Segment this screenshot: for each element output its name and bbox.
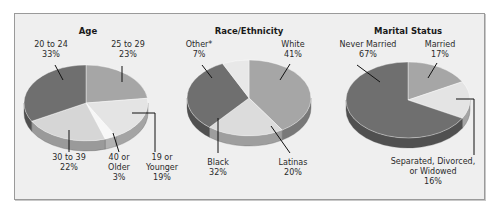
slice-label-line: Younger: [145, 163, 179, 172]
slice-label-line: Never Married: [340, 40, 397, 49]
slice-label: Other*7%: [186, 40, 213, 59]
slice-label: Latinas20%: [279, 158, 308, 177]
slice-label-line: 16%: [424, 177, 442, 186]
slice-label: 19 orYounger19%: [145, 153, 179, 182]
slice-label-line: Separated, Divorced,: [391, 157, 475, 166]
slice-label-line: 3%: [113, 173, 126, 182]
pie-chart-2: Marital StatusMarried17%Separated, Divor…: [340, 26, 476, 186]
slice-label-line: Latinas: [279, 158, 308, 167]
slice-label: White41%: [281, 40, 304, 59]
pie-chart-1: Race/EthnicityWhite41%Latinas20%Black32%…: [186, 26, 311, 177]
slice-label-line: 17%: [431, 50, 449, 59]
slice-label-line: Black: [207, 158, 229, 167]
chart-title: Age: [79, 26, 98, 36]
slice-label: 40 orOlder3%: [108, 153, 131, 182]
slice-label-line: 7%: [193, 50, 206, 59]
slice-label-line: Other*: [186, 40, 213, 49]
slice-label: Separated, Divorced,or Widowed16%: [391, 157, 475, 186]
slice-label-line: 67%: [359, 50, 377, 59]
slice-label-line: 20 to 24: [34, 40, 67, 49]
slice-label-line: 25 to 29: [111, 40, 144, 49]
slice-label-line: 30 to 39: [52, 153, 85, 162]
pie-chart-0: Age25 to 2923%19 orYounger19%40 orOlder3…: [24, 26, 179, 182]
slice-label-line: Older: [108, 163, 131, 172]
slice-label-line: 41%: [284, 50, 302, 59]
slice-label: 25 to 2923%: [111, 40, 144, 59]
slice-label-line: 19 or: [152, 153, 174, 162]
slice-label: Married17%: [425, 40, 455, 59]
slice-label-line: 22%: [60, 163, 78, 172]
slice-label-line: 20%: [284, 168, 302, 177]
slice-label-line: 40 or: [109, 153, 131, 162]
slice-label: Black32%: [207, 158, 229, 177]
slice-label-line: or Widowed: [409, 167, 456, 176]
pie-charts: Age25 to 2923%19 orYounger19%40 orOlder3…: [0, 0, 498, 210]
slice-label-line: 33%: [42, 50, 60, 59]
chart-title: Race/Ethnicity: [215, 26, 284, 36]
slice-label: Never Married67%: [340, 40, 397, 59]
slice-label: 30 to 3922%: [52, 153, 85, 172]
pie-slice-25-to-29: [86, 65, 148, 103]
slice-label: 20 to 2433%: [34, 40, 67, 59]
slice-label-line: Married: [425, 40, 455, 49]
slice-label-line: White: [281, 40, 304, 49]
chart-title: Marital Status: [374, 26, 442, 36]
slice-label-line: 32%: [209, 168, 227, 177]
slice-label-line: 19%: [153, 173, 171, 182]
slice-label-line: 23%: [119, 50, 137, 59]
